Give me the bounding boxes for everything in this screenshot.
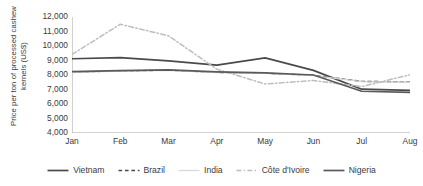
legend-label: Brazil <box>144 165 166 175</box>
axis-lines <box>72 17 410 133</box>
legend-swatch-line-icon <box>178 166 200 175</box>
x-axis-tick-label: Mar <box>148 136 190 146</box>
legend-swatch-line-icon <box>323 166 345 175</box>
series-line-vietnam <box>72 58 410 91</box>
y-axis-tick-label: 10,000 <box>32 40 68 50</box>
plot-area <box>72 17 410 133</box>
x-axis-tick-label: Aug <box>389 136 423 146</box>
x-axis-tick-label: Jun <box>292 136 334 146</box>
x-axis-tick-labels: JanFebMarAprMayJunJulAug <box>72 136 410 152</box>
y-axis-tick-label: 6,000 <box>32 98 68 108</box>
legend-label: Nigeria <box>349 165 376 175</box>
legend-swatch-line-icon <box>47 166 69 175</box>
x-axis-tick-label: Apr <box>196 136 238 146</box>
legend-item-c-te-d-ivoire[interactable]: Côte d'Ivoire <box>236 165 310 175</box>
y-axis-tick-label: 7,000 <box>32 84 68 94</box>
legend-label: Côte d'Ivoire <box>262 165 310 175</box>
y-axis-tick-label: 8,000 <box>32 69 68 79</box>
y-axis-tick-labels: 4,0005,0006,0007,0008,0009,00010,00011,0… <box>28 0 68 186</box>
x-axis-tick-label: Jul <box>341 136 383 146</box>
legend-swatch-line-icon <box>236 166 258 175</box>
legend-item-brazil[interactable]: Brazil <box>118 165 166 175</box>
legend-item-india[interactable]: India <box>178 165 223 175</box>
series-canvas <box>72 17 410 133</box>
chart-legend: VietnamBrazilIndiaCôte d'IvoireNigeria <box>0 160 423 180</box>
y-axis-title: Price per ton of processed cashew kernel… <box>9 0 29 132</box>
legend-item-vietnam[interactable]: Vietnam <box>47 165 104 175</box>
legend-label: India <box>204 165 223 175</box>
y-axis-tick-label: 9,000 <box>32 55 68 65</box>
x-axis-tick-label: Jan <box>51 136 93 146</box>
y-axis-tick-label: 12,000 <box>32 11 68 21</box>
x-axis-tick-label: Feb <box>99 136 141 146</box>
x-axis-tick-label: May <box>244 136 286 146</box>
y-axis-tick-label: 5,000 <box>32 113 68 123</box>
chart-figure: Price per ton of processed cashew kernel… <box>0 0 423 186</box>
y-axis-tick-label: 11,000 <box>32 26 68 36</box>
series-line-c-te-d-ivoire <box>72 24 410 86</box>
legend-swatch-line-icon <box>118 166 140 175</box>
legend-label: Vietnam <box>73 165 104 175</box>
legend-item-nigeria[interactable]: Nigeria <box>323 165 376 175</box>
